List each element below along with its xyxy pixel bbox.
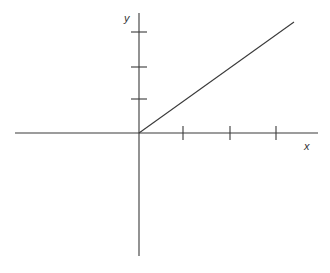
y-axis-label: y (124, 13, 130, 24)
x-axis-label: x (304, 141, 310, 152)
coordinate-plane-figure: y x (0, 0, 330, 273)
plot-background (0, 0, 330, 273)
plot-canvas (0, 0, 330, 273)
